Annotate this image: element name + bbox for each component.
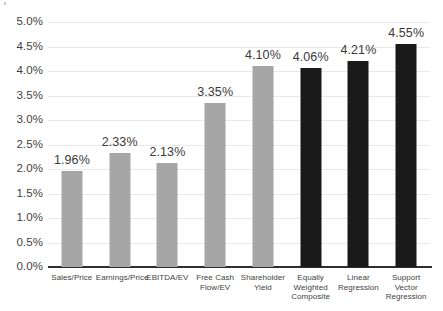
bar-value-label: 2.33% <box>102 136 138 149</box>
x-axis-category-line: Flow/EV <box>191 283 239 293</box>
x-axis-category-label: Earnings/Price <box>96 273 144 283</box>
bar-series: 1.96%2.33%2.13%3.35%4.10%4.06%4.21%4.55% <box>48 22 430 267</box>
x-axis-category-line: Yield <box>239 283 287 293</box>
bar-group: 4.06% <box>287 22 335 267</box>
bar-group: 4.21% <box>335 22 383 267</box>
x-axis-category-labels: Sales/PriceEarnings/PriceEBITDA/EVFree C… <box>48 273 430 311</box>
bar-value-label: 4.06% <box>293 51 329 64</box>
bar-group: 2.13% <box>144 22 192 267</box>
x-axis-category-line: Regression <box>382 292 430 302</box>
x-axis-category-line: Support <box>382 273 430 283</box>
x-axis-category-label: SupportVectorRegression <box>382 273 430 302</box>
x-axis-category-line: Earnings/Price <box>96 273 144 283</box>
y-axis-tick-label: 4.0% <box>0 65 43 77</box>
bar-group: 1.96% <box>48 22 96 267</box>
x-axis-category-line: Equally <box>287 273 335 283</box>
y-axis-tick-label: 3.0% <box>0 114 43 126</box>
bar-group: 4.55% <box>382 22 430 267</box>
bar <box>205 103 226 267</box>
bar-value-label: 1.96% <box>54 154 90 167</box>
x-axis-category-line: Sales/Price <box>48 273 96 283</box>
bar-group: 3.35% <box>191 22 239 267</box>
bar <box>61 171 82 267</box>
x-axis-category-label: ShareholderYield <box>239 273 287 292</box>
x-axis-category-line: Linear <box>335 273 383 283</box>
bar-value-label: 4.10% <box>245 49 281 62</box>
bar-value-label: 3.35% <box>197 86 233 99</box>
bar <box>252 66 273 267</box>
x-axis-category-line: Vector <box>382 283 430 293</box>
bar-chart: 5.0%4.5%4.0%3.5%3.0%2.5%2.0%1.5%1.0%0.5%… <box>0 0 443 311</box>
x-axis-category-label: LinearRegression <box>335 273 383 292</box>
bar <box>396 44 417 267</box>
y-axis-tick-label: 2.0% <box>0 163 43 175</box>
x-axis-category-label: EquallyWeightedComposite <box>287 273 335 302</box>
y-axis-tick-label: 0.0% <box>0 261 43 273</box>
x-axis-category-label: Free CashFlow/EV <box>191 273 239 292</box>
bar <box>348 61 369 267</box>
bar <box>300 68 321 267</box>
y-axis-tick-label: 1.5% <box>0 188 43 200</box>
y-axis: 5.0%4.5%4.0%3.5%3.0%2.5%2.0%1.5%1.0%0.5%… <box>0 0 46 311</box>
x-axis-category-line: EBITDA/EV <box>144 273 192 283</box>
bar-group: 2.33% <box>96 22 144 267</box>
bar-value-label: 4.21% <box>340 44 376 57</box>
bar <box>109 153 130 267</box>
x-axis-category-line: Composite <box>287 292 335 302</box>
bar-value-label: 2.13% <box>149 146 185 159</box>
y-axis-tick-label: 5.0% <box>0 16 43 28</box>
bar <box>157 163 178 267</box>
x-axis-category-line: Free Cash <box>191 273 239 283</box>
x-axis-category-label: Sales/Price <box>48 273 96 283</box>
bar-value-label: 4.55% <box>388 27 424 40</box>
x-axis-category-line: Shareholder <box>239 273 287 283</box>
y-axis-tick-label: 4.5% <box>0 41 43 53</box>
y-axis-tick-label: 0.5% <box>0 237 43 249</box>
y-axis-tick-label: 1.0% <box>0 212 43 224</box>
bar-group: 4.10% <box>239 22 287 267</box>
x-axis-category-line: Weighted <box>287 283 335 293</box>
y-axis-tick-label: 3.5% <box>0 90 43 102</box>
x-axis-category-label: EBITDA/EV <box>144 273 192 283</box>
y-axis-tick-label: 2.5% <box>0 139 43 151</box>
x-axis-category-line: Regression <box>335 283 383 293</box>
